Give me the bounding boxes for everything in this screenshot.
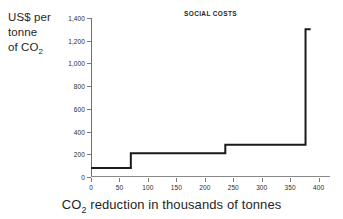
x-tick-label: 250	[228, 184, 239, 191]
x-tick-label: 400	[313, 184, 324, 191]
x-tick-mark	[233, 178, 234, 182]
y-tick-label: 1,400	[68, 15, 85, 22]
chart-figure: US$ per tonne of CO2 SOCIAL COSTS 020040…	[0, 0, 343, 219]
y-tick-label: 400	[74, 128, 85, 135]
x-tick-label: 300	[256, 184, 267, 191]
x-tick-label: 350	[285, 184, 296, 191]
x-tick-label: 0	[89, 184, 93, 191]
x-tick-label: 150	[171, 184, 182, 191]
x-tick-label: 200	[199, 184, 210, 191]
x-axis-caption-pre: CO	[62, 197, 82, 212]
y-tick-label: 200	[74, 151, 85, 158]
y-tick-label: 600	[74, 105, 85, 112]
x-tick-label: 100	[142, 184, 153, 191]
y-tick-label: 800	[74, 83, 85, 90]
y-tick-label: 1,000	[68, 60, 85, 67]
x-tick-mark	[91, 178, 92, 182]
x-tick-mark	[176, 178, 177, 182]
x-axis-caption-post: reduction in thousands of tonnes	[86, 197, 281, 212]
y-axis-caption-line-3-text: of CO	[8, 41, 39, 53]
x-tick-mark	[290, 178, 291, 182]
x-tick-mark	[119, 178, 120, 182]
x-tick-mark	[205, 178, 206, 182]
y-tick-label: 1,200	[68, 37, 85, 44]
x-tick-label: 50	[116, 184, 123, 191]
x-tick-mark	[148, 178, 149, 182]
x-axis-caption: CO2 reduction in thousands of tonnes	[0, 197, 343, 215]
x-tick-mark	[319, 178, 320, 182]
x-tick-mark	[262, 178, 263, 182]
y-tick-label: 0	[81, 174, 85, 181]
step-series	[91, 18, 330, 177]
chart-title: SOCIAL COSTS	[91, 10, 330, 17]
plot-area: SOCIAL COSTS 02004006008001,0001,2001,40…	[91, 18, 330, 177]
y-axis-caption-subscript: 2	[39, 47, 44, 56]
